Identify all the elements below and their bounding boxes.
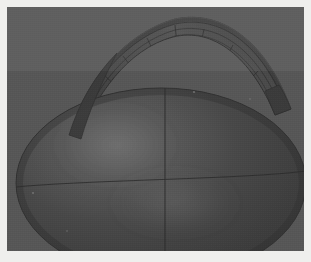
ellipsoid-specular-lower	[113, 177, 237, 229]
render-viewport	[7, 7, 304, 251]
scene-svg	[7, 7, 304, 251]
figure-plate	[0, 0, 311, 262]
